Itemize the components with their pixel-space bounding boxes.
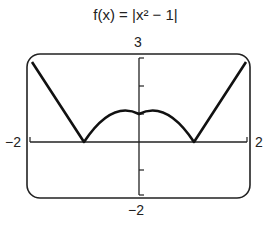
y-min-label: −2	[128, 202, 144, 218]
y-max-label: 3	[134, 34, 142, 50]
x-min-label: −2	[5, 134, 21, 150]
y-axis-ticks	[139, 58, 144, 195]
x-max-label: 2	[255, 134, 263, 150]
